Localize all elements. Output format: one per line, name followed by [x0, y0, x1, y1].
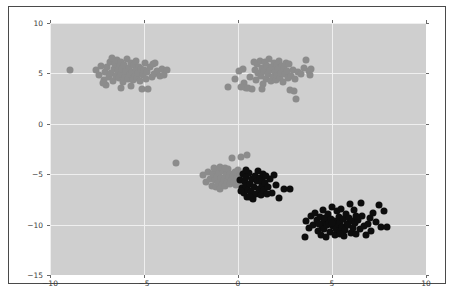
scatter-point	[244, 152, 251, 159]
scatter-point	[66, 67, 73, 74]
scatter-point	[109, 55, 116, 62]
scatter-point	[237, 84, 244, 91]
y-axis-tick-mark-right	[426, 23, 429, 24]
scatter-point	[144, 86, 151, 93]
x-axis-tick-mark	[332, 275, 333, 278]
gridline-horizontal	[50, 23, 426, 24]
scatter-point	[301, 233, 308, 240]
y-axis-tick-mark	[47, 23, 50, 24]
x-axis-tick-mark	[238, 275, 239, 278]
scatter-point	[286, 186, 293, 193]
scatter-point	[308, 65, 315, 72]
scatter-point	[329, 220, 336, 227]
y-axis-tick-mark-right	[426, 174, 429, 175]
scatter-point	[270, 171, 277, 178]
scatter-point	[99, 80, 106, 87]
x-axis-tick-mark-top	[144, 20, 145, 23]
y-axis-tick-label: −15	[9, 271, 43, 280]
x-axis-tick-mark-top	[238, 20, 239, 23]
x-axis-tick-label: −5	[138, 279, 149, 288]
scatter-point	[229, 154, 236, 161]
scatter-point	[258, 85, 265, 92]
scatter-point	[276, 195, 283, 202]
scatter-point	[292, 76, 299, 83]
scatter-point	[127, 83, 134, 90]
scatter-point	[302, 57, 309, 64]
scatter-point	[243, 167, 250, 174]
x-axis-tick-mark	[144, 275, 145, 278]
y-axis-tick-label: 10	[9, 19, 43, 28]
scatter-point	[368, 227, 375, 234]
scatter-plot-area	[50, 23, 426, 275]
y-axis-tick-mark	[47, 225, 50, 226]
scatter-point	[239, 65, 246, 72]
x-axis-tick-mark-top	[50, 20, 51, 23]
y-axis-tick-label: −10	[9, 220, 43, 229]
x-axis-tick-label: 0	[236, 279, 241, 288]
y-axis-tick-mark-right	[426, 225, 429, 226]
y-axis-tick-label: 0	[9, 119, 43, 128]
scatter-point	[297, 70, 304, 77]
scatter-point	[224, 83, 231, 90]
scatter-point	[272, 182, 279, 189]
gridline-horizontal	[50, 124, 426, 125]
x-axis-tick-mark-top	[332, 20, 333, 23]
scatter-point	[247, 194, 254, 201]
scatter-point	[237, 188, 244, 195]
y-axis-tick-mark-right	[426, 124, 429, 125]
scatter-point	[380, 207, 387, 214]
scatter-point	[232, 75, 239, 82]
scatter-point	[286, 87, 293, 94]
scatter-point	[250, 59, 257, 66]
scatter-point	[358, 200, 365, 207]
scatter-point	[163, 67, 170, 74]
scatter-point	[172, 160, 179, 167]
scatter-point	[359, 212, 366, 219]
scatter-point	[307, 71, 314, 78]
scatter-point	[264, 191, 271, 198]
y-axis-tick-mark	[47, 174, 50, 175]
scatter-point	[315, 220, 322, 227]
x-axis-tick-label: 10	[421, 279, 431, 288]
gridline-vertical	[50, 23, 51, 275]
scatter-point	[221, 165, 228, 172]
y-axis-tick-label: 5	[9, 69, 43, 78]
x-axis-tick-label: −10	[42, 279, 58, 288]
scatter-point	[293, 95, 300, 102]
x-axis-tick-label: 5	[330, 279, 335, 288]
figure-canvas: −15−10−50510−10−50510	[0, 0, 459, 302]
scatter-point	[383, 223, 390, 230]
y-axis-tick-mark	[47, 73, 50, 74]
figure-frame: −15−10−50510−10−50510	[8, 6, 446, 284]
y-axis-tick-mark-right	[426, 73, 429, 74]
x-axis-tick-mark	[50, 275, 51, 278]
scatter-point	[370, 209, 377, 216]
y-axis-tick-label: −5	[9, 170, 43, 179]
scatter-point	[337, 230, 344, 237]
scatter-point	[152, 59, 159, 66]
x-axis-tick-mark	[426, 275, 427, 278]
scatter-point	[118, 84, 125, 91]
scatter-point	[352, 213, 359, 220]
gridline-vertical	[238, 23, 239, 275]
y-axis-tick-mark	[47, 124, 50, 125]
x-axis-tick-mark-top	[426, 20, 427, 23]
